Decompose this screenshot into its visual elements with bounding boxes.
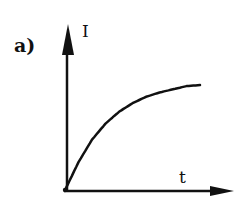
x-axis-label: t xyxy=(179,167,186,187)
diagram-canvas: a) I t xyxy=(0,0,239,217)
y-axis-label: I xyxy=(82,21,89,41)
panel-label: a) xyxy=(14,34,35,56)
x-axis-arrowhead-icon xyxy=(210,186,234,196)
y-axis-arrowhead-icon xyxy=(62,24,74,55)
